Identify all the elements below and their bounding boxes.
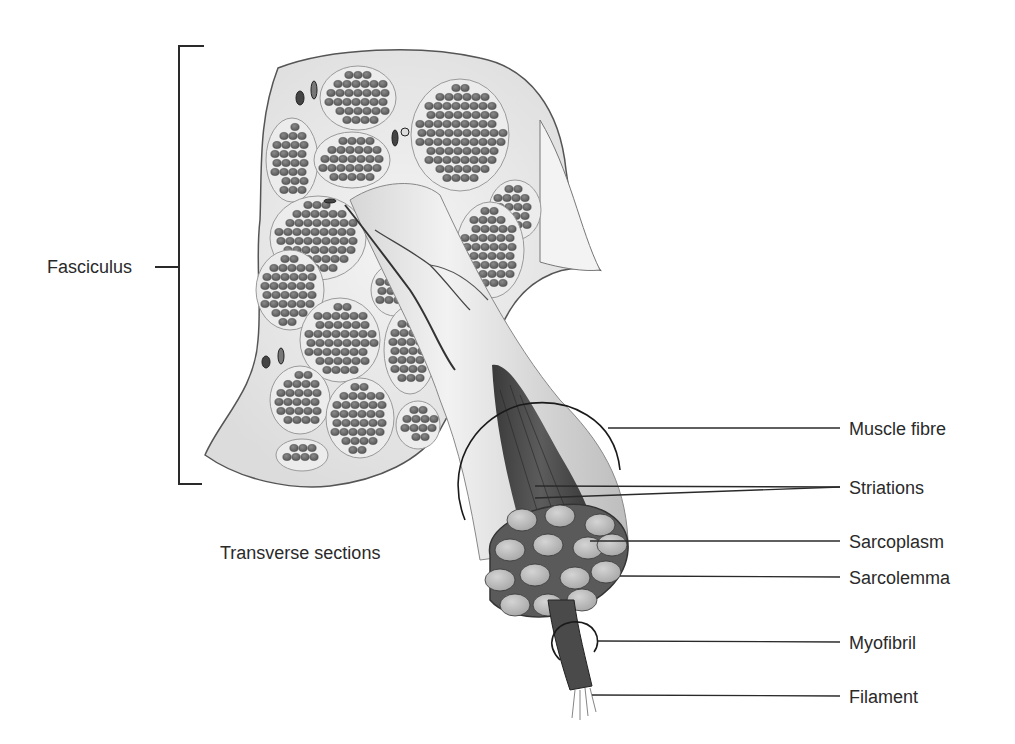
label-sarcoplasm: Sarcoplasm — [849, 533, 944, 551]
myofibril-strand — [548, 600, 596, 720]
label-filament: Filament — [849, 688, 918, 706]
label-striations: Striations — [849, 479, 924, 497]
label-fasciculus: Fasciculus — [47, 258, 132, 276]
label-myofibril: Myofibril — [849, 634, 916, 652]
label-sarcolemma: Sarcolemma — [849, 569, 950, 587]
label-muscle-fibre: Muscle fibre — [849, 420, 946, 438]
leader-filament — [592, 695, 840, 696]
label-transverse-sections: Transverse sections — [220, 544, 380, 562]
fasciculus-bracket — [155, 46, 204, 484]
leader-myofibril — [598, 641, 840, 642]
leader-sarcolemma — [620, 576, 840, 577]
muscle-structure-diagram: Fasciculus Transverse sections Muscle fi… — [0, 0, 1015, 744]
